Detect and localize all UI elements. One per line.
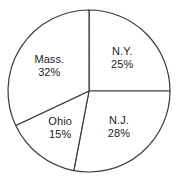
pie-chart: N.Y.25%N.J.28%Ohio15%Mass.32% xyxy=(0,0,179,187)
pie-slice-n-j xyxy=(74,91,170,172)
pie-chart-graphic xyxy=(0,0,179,187)
pie-slice-n-y xyxy=(89,10,170,91)
